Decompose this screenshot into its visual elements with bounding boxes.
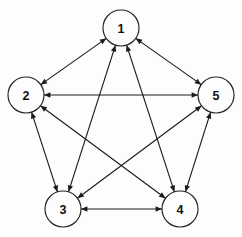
node-label-3: 3 xyxy=(60,203,67,217)
edge-4-5 xyxy=(185,112,211,192)
arrowhead-icon-5-to-3 xyxy=(77,192,84,198)
edge-2-4 xyxy=(40,106,165,199)
arrowhead-icon-3-to-1 xyxy=(111,45,116,52)
node-3[interactable]: 3 xyxy=(45,191,81,227)
edge-1-3 xyxy=(68,45,116,192)
arrowhead-icon-4-to-5 xyxy=(206,112,211,119)
edge-line-1-2 xyxy=(41,38,107,84)
arrowhead-icon-3-to-5 xyxy=(195,106,202,112)
node-1[interactable]: 1 xyxy=(103,10,139,46)
arrowhead-icon-1-to-3 xyxy=(68,185,73,192)
arrowhead-icon-1-to-2 xyxy=(41,79,48,85)
node-5[interactable]: 5 xyxy=(198,77,234,113)
arrowhead-icon-4-to-2 xyxy=(40,106,47,112)
edges-layer xyxy=(31,38,211,211)
nodes-layer: 12345 xyxy=(8,10,234,227)
arrowhead-icon-2-to-5 xyxy=(192,92,198,97)
node-label-2: 2 xyxy=(23,89,30,103)
edge-1-2 xyxy=(41,38,107,84)
edge-3-4 xyxy=(81,206,162,211)
edge-1-4 xyxy=(126,45,175,192)
node-2[interactable]: 2 xyxy=(8,77,44,113)
edge-line-2-4 xyxy=(40,106,165,199)
edge-3-5 xyxy=(77,106,201,198)
edge-1-5 xyxy=(136,38,202,84)
arrowhead-icon-2-to-4 xyxy=(159,192,166,198)
arrowhead-icon-4-to-1 xyxy=(126,45,131,52)
arrowhead-icon-1-to-4 xyxy=(170,185,175,192)
edge-line-1-3 xyxy=(68,45,115,192)
edge-2-5 xyxy=(44,92,198,97)
arrowhead-icon-4-to-3 xyxy=(81,206,87,211)
diagram-canvas: 12345 xyxy=(0,0,242,237)
edge-2-3 xyxy=(31,112,58,192)
node-label-1: 1 xyxy=(118,22,125,36)
node-label-4: 4 xyxy=(177,203,184,217)
node-4[interactable]: 4 xyxy=(162,191,198,227)
edge-line-1-4 xyxy=(127,45,175,192)
arrowhead-icon-3-to-4 xyxy=(156,206,162,211)
edge-line-2-3 xyxy=(32,112,58,192)
edge-line-4-5 xyxy=(185,112,210,192)
graph-svg: 12345 xyxy=(0,0,242,237)
arrowhead-icon-2-to-3 xyxy=(53,185,58,192)
arrowhead-icon-3-to-2 xyxy=(31,112,36,119)
arrowhead-icon-5-to-2 xyxy=(44,92,50,97)
edge-line-3-5 xyxy=(77,106,201,198)
arrowhead-icon-5-to-1 xyxy=(136,38,143,44)
edge-line-1-5 xyxy=(136,38,202,84)
arrowhead-icon-1-to-5 xyxy=(195,79,202,85)
arrowhead-icon-2-to-1 xyxy=(100,38,107,44)
node-label-5: 5 xyxy=(213,89,220,103)
arrowhead-icon-5-to-4 xyxy=(185,185,190,192)
